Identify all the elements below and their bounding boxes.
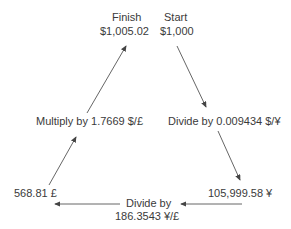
- arrow-multiply-to-finish: [87, 46, 126, 113]
- pound-value: 568.81 £: [14, 187, 57, 200]
- finish-title: Finish: [112, 11, 141, 24]
- arrow-pound-to-multiply: [49, 137, 76, 185]
- divide-pound-label-line1: Divide by: [126, 197, 171, 210]
- divide-pound-label-line2: 186.3543 ¥/£: [115, 210, 179, 223]
- multiply-label: Multiply by 1.7669 $/£: [36, 115, 143, 128]
- divide-yen-label: Divide by 0.009434 $/¥: [168, 115, 281, 128]
- arrow-divide-to-yen: [218, 131, 240, 180]
- start-value: $1,000: [160, 25, 194, 38]
- yen-value: 105,999.58 ¥: [208, 187, 272, 200]
- arrow-start-to-yen: [177, 46, 206, 107]
- start-title: Start: [164, 11, 187, 24]
- finish-value: $1,005.02: [100, 25, 149, 38]
